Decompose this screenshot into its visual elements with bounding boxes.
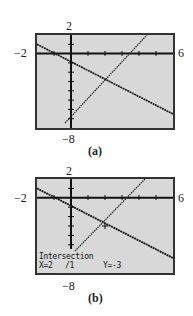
caption-b: (b)	[88, 292, 103, 304]
xmin-label: −2	[14, 47, 27, 59]
x-value: X=2	[39, 262, 53, 270]
ymin-label: −8	[62, 280, 75, 292]
graph-a	[37, 35, 173, 128]
calculator-screen-b: Intersection X=2 /1 Y=-3	[35, 177, 175, 275]
line2	[75, 179, 145, 251]
caption-a: (a)	[88, 145, 102, 157]
line2	[65, 35, 147, 123]
cursor-marker: /1	[65, 262, 74, 270]
y-value: Y=-3	[103, 262, 121, 270]
xmax-label: 6	[178, 47, 184, 59]
ymax-label: 2	[66, 20, 72, 32]
calculator-screen-a	[35, 33, 175, 130]
ymax-label: 2	[66, 165, 72, 177]
xmin-label: −2	[14, 192, 27, 204]
ymin-label: −8	[62, 133, 75, 145]
xmax-label: 6	[178, 192, 184, 204]
intersection-title: Intersection	[39, 253, 93, 261]
